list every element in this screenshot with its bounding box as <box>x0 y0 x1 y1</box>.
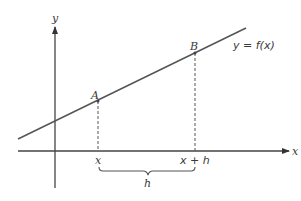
x-axis-label: x <box>292 145 299 158</box>
brace-h <box>99 167 195 175</box>
function-line <box>18 28 246 139</box>
point-b-label: B <box>189 40 198 53</box>
brace-label-h: h <box>144 177 151 190</box>
point-a-label: A <box>90 89 99 102</box>
tick-label-x-plus-h: x + h <box>179 154 210 167</box>
tick-label-x: x <box>95 154 102 167</box>
diagram-canvas: y x y = f(x) A B x x + h h <box>0 0 301 201</box>
y-axis-label: y <box>51 12 59 25</box>
curve-label: y = f(x) <box>232 39 275 52</box>
